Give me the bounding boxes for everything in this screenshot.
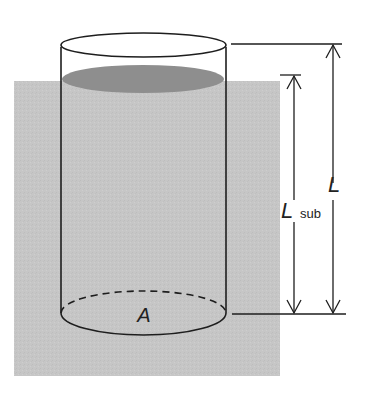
area-label: A xyxy=(136,304,150,326)
length-submerged-label: L xyxy=(281,198,293,223)
cylinder-top-rim xyxy=(61,33,226,57)
submerged-cylinder-diagram: A L L sub xyxy=(0,0,368,400)
length-total-label: L xyxy=(328,172,340,197)
length-submerged-subscript: sub xyxy=(300,206,321,221)
length-submerged-dimension xyxy=(287,76,301,313)
